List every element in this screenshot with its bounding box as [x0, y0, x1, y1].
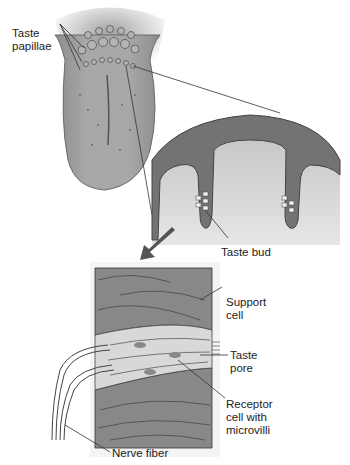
tongue-illustration — [55, 8, 165, 191]
label-taste-pore: Taste pore — [230, 349, 258, 375]
label-receptor-cell: Receptor cell with microvilli — [226, 398, 273, 437]
papillae-cross-section — [152, 115, 340, 245]
label-taste-bud: Taste bud — [221, 246, 271, 259]
diagram-artwork — [0, 0, 350, 465]
label-support-cell: Support cell — [226, 296, 266, 322]
label-nerve-fiber: Nerve fiber — [112, 447, 168, 460]
label-taste-papillae: Taste papillae — [12, 27, 52, 53]
taste-bud-enlarged — [52, 262, 220, 457]
